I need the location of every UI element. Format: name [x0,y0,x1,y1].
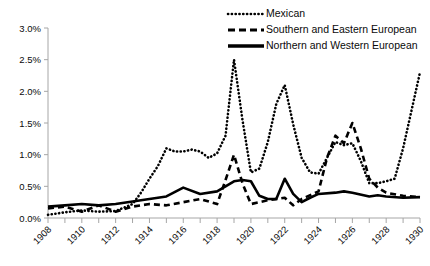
y-tick-label: 2.5% [19,54,41,65]
y-tick-label: 2.0% [19,86,41,97]
y-tick-label: 1.5% [19,118,41,129]
series-line-southern-eastern-european [48,123,420,212]
y-tick-label: 0.0% [19,213,41,224]
x-tick-label: 1922 [267,224,290,247]
data-series-group [48,60,420,215]
legend-item-southern-eastern-european: Southern and Eastern European [228,23,417,35]
x-tick-label: 1930 [403,224,426,247]
x-tick-label: 1924 [301,224,324,247]
immigration-rate-line-chart: 0.0%0.5%1.0%1.5%2.0%2.5%3.0% 19081910191… [0,0,430,266]
x-tick-label: 1926 [335,224,358,247]
x-tick-label: 1916 [166,224,189,247]
series-line-northern-western-european [48,179,420,207]
legend-item-mexican: Mexican [228,7,305,19]
x-axis: 1908191019121914191619181920192219241926… [31,218,426,246]
legend-item-northern-western-european: Northern and Western European [228,39,418,51]
x-tick-label: 1912 [98,224,121,247]
x-tick-label: 1908 [31,224,54,247]
y-tick-label: 1.0% [19,149,41,160]
legend-label: Southern and Eastern European [266,23,417,35]
series-line-mexican [48,60,420,215]
legend-label: Mexican [266,7,305,19]
chart-legend: MexicanSouthern and Eastern EuropeanNort… [228,7,418,51]
y-tick-label: 0.5% [19,181,41,192]
y-axis: 0.0%0.5%1.0%1.5%2.0%2.5%3.0% [19,23,48,224]
legend-label: Northern and Western European [266,39,418,51]
x-tick-label: 1928 [369,224,392,247]
x-tick-label: 1918 [200,224,223,247]
y-tick-label: 3.0% [19,23,41,34]
x-tick-label: 1910 [65,224,88,247]
x-tick-label: 1920 [234,224,257,247]
x-tick-label: 1914 [132,224,155,247]
chart-canvas: 0.0%0.5%1.0%1.5%2.0%2.5%3.0% 19081910191… [0,0,430,266]
